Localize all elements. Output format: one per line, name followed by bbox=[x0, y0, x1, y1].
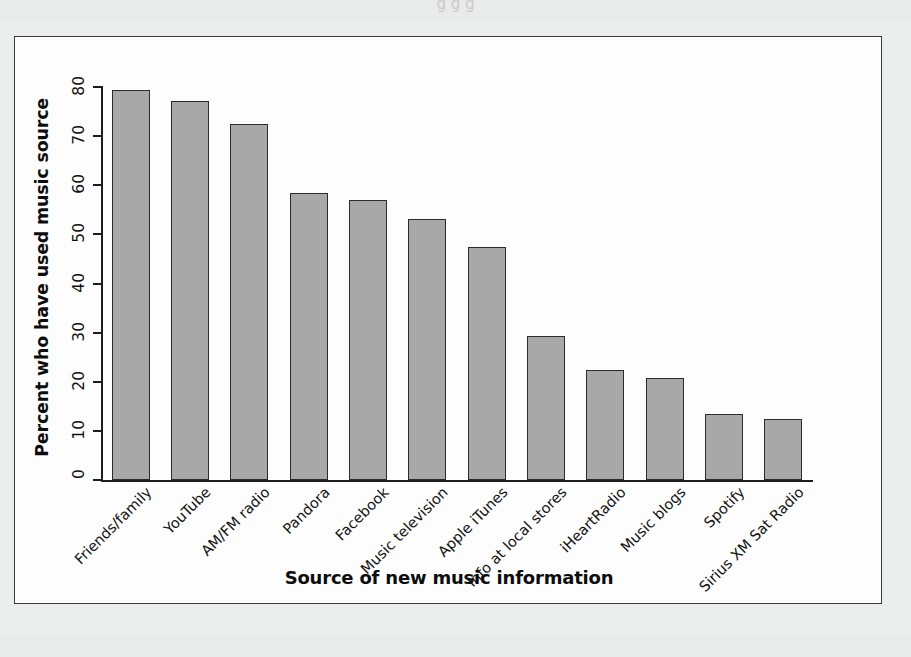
x-category-label-text: YouTube bbox=[161, 484, 214, 537]
bar bbox=[705, 414, 743, 480]
y-tick-label-text: 10 bbox=[72, 420, 88, 440]
bar bbox=[468, 247, 506, 480]
x-category-label-text: Friends/family bbox=[71, 484, 154, 567]
bar bbox=[527, 336, 565, 480]
x-axis-title: Source of new music information bbox=[15, 567, 883, 588]
y-tick-label-text: 40 bbox=[72, 273, 88, 293]
y-tick-label-text: 60 bbox=[72, 174, 88, 194]
x-category-label: Spotify bbox=[692, 484, 739, 531]
bar bbox=[646, 378, 684, 480]
y-tick-label-text: 80 bbox=[72, 76, 88, 96]
y-tick-label-text: 50 bbox=[72, 223, 88, 243]
y-tick-label-text: 0 bbox=[72, 469, 88, 479]
x-category-label: Facebook bbox=[324, 484, 383, 543]
bar bbox=[230, 124, 268, 480]
bar bbox=[112, 90, 150, 480]
y-axis-title: Percent who have used music source bbox=[29, 77, 55, 477]
bar-series bbox=[101, 37, 813, 482]
chart-card: Percent who have used music source 01020… bbox=[14, 36, 882, 604]
x-category-label: YouTube bbox=[152, 484, 205, 537]
x-category-label-text: Pandora bbox=[279, 484, 332, 537]
x-category-label: Friends/family bbox=[63, 484, 146, 567]
x-category-label-text: Spotify bbox=[701, 484, 748, 531]
plot-area: Percent who have used music source 01020… bbox=[15, 37, 881, 603]
y-tick-label-text: 70 bbox=[72, 125, 88, 145]
x-category-label: Pandora bbox=[271, 484, 324, 537]
y-axis-title-text: Percent who have used music source bbox=[32, 98, 52, 457]
y-tick-label-text: 20 bbox=[72, 371, 88, 391]
y-tick-label-text: 30 bbox=[72, 322, 88, 342]
bar bbox=[764, 419, 802, 480]
bar bbox=[290, 193, 328, 480]
bar bbox=[408, 219, 446, 480]
bar bbox=[349, 200, 387, 481]
bar bbox=[586, 370, 624, 480]
x-axis-category-labels: Friends/familyYouTubeAM/FM radioPandoraF… bbox=[101, 484, 861, 614]
bar bbox=[171, 101, 209, 480]
cut-off-headline-above-figure: g g g bbox=[0, 0, 911, 16]
figure-page: Percent who have used music source 01020… bbox=[0, 20, 911, 634]
